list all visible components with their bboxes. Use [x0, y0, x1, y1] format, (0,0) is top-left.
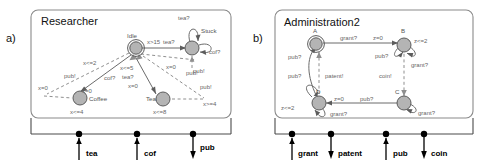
edge-D-C-arrow — [326, 101, 332, 106]
port-grant-arrow-in — [289, 138, 295, 144]
panel-a-bus: tea cof pub — [31, 118, 231, 160]
port-grant-dot[interactable] — [289, 131, 295, 137]
label-pub-bottom: pub? — [360, 96, 374, 102]
panel-b-title: Administration2 — [284, 16, 360, 28]
state-coffee[interactable]: Coffee x<=4 — [70, 91, 108, 115]
state-B-invariant: z<=2 — [414, 38, 428, 44]
port-tea-arrow-in — [76, 138, 82, 144]
panel-b-bus: grant patent pub coin — [275, 118, 473, 160]
state-D-circle[interactable] — [312, 96, 326, 110]
state-B-label: B — [401, 27, 405, 34]
port-patent-dot[interactable] — [328, 131, 334, 137]
port-pub-dot[interactable] — [190, 131, 196, 137]
port-coin-arrow-out — [421, 151, 427, 159]
panel-a-tag: a) — [6, 32, 16, 44]
edge-C-B-dashed-arrow — [401, 90, 407, 96]
state-B[interactable]: B z<=2 — [397, 27, 428, 52]
figure-root: a) Researcher — [0, 0, 482, 167]
port-grant-label: grant — [298, 149, 318, 158]
state-D-invariant: z<=2 — [281, 105, 295, 111]
panel-a: a) Researcher — [6, 10, 231, 160]
port-coin[interactable]: coin — [421, 131, 448, 159]
state-stuck-circle[interactable] — [185, 41, 199, 55]
edge-idle-farright-dashed — [143, 56, 204, 98]
state-A-label: A — [313, 27, 318, 34]
label-x-le-5: x<=5 — [120, 65, 134, 71]
label-pub-left-2: pub? — [288, 73, 302, 79]
label-x0-cof: x=0 — [82, 88, 93, 94]
panel-b: b) Administration2 — [253, 10, 473, 160]
edge-stuck-pub-arrow — [190, 56, 195, 62]
port-tea-dot[interactable] — [76, 131, 82, 137]
label-x-ge-4: x>=4 — [203, 101, 217, 107]
state-tea-circle[interactable] — [156, 92, 170, 106]
port-pub-b[interactable]: pub — [383, 131, 408, 160]
panel-a-title: Researcher — [41, 15, 98, 27]
state-tea[interactable]: Tea x<=8 — [146, 92, 170, 115]
port-cof[interactable]: cof — [134, 131, 157, 160]
automata-figure: a) Researcher — [0, 0, 482, 167]
port-grant[interactable]: grant — [289, 131, 319, 160]
label-x-le-2: x<=2 — [83, 60, 97, 66]
label-grant-B: grant? — [411, 62, 429, 68]
port-cof-dot[interactable] — [134, 131, 140, 137]
edge-left-coffee-dashed — [44, 96, 72, 98]
label-z0-bottom: z=0 — [334, 96, 345, 102]
state-D-label: D — [316, 88, 321, 95]
port-pub[interactable]: pub — [190, 131, 215, 159]
edge-idle-tea-arrow — [151, 87, 156, 94]
state-stuck-label: Stuck — [201, 27, 217, 34]
port-patent[interactable]: patent — [328, 131, 363, 159]
port-tea-label: tea — [86, 149, 98, 158]
port-cof-arrow-in — [134, 138, 140, 144]
label-x0-left: x=0 — [38, 85, 49, 91]
port-pub-b-arrow-in — [383, 138, 389, 144]
state-A[interactable]: A — [308, 27, 325, 52]
state-coffee-label: Coffee — [89, 95, 108, 102]
label-patent: patent! — [325, 73, 344, 79]
label-grant-top: grant? — [340, 35, 358, 41]
state-C-circle[interactable] — [397, 96, 411, 110]
state-idle-label: Idle — [127, 32, 138, 39]
label-z0-top: z=0 — [373, 35, 384, 41]
edge-A-D-patent-arrow — [316, 52, 322, 58]
port-pub-arrow-out — [190, 151, 196, 159]
loop-stuck-tea-arrow — [196, 35, 201, 41]
state-C-label: C — [395, 88, 400, 95]
label-x0-tea: x=0 — [128, 83, 139, 89]
port-coin-dot[interactable] — [421, 131, 427, 137]
state-D[interactable]: D z<=2 — [281, 88, 326, 111]
port-tea[interactable]: tea — [76, 131, 98, 160]
label-stuck-in: tea? — [163, 39, 175, 45]
label-pub-B: pub? — [375, 53, 389, 59]
label-pub-left: pub! — [64, 73, 76, 79]
state-tea-invariant: x<=8 — [153, 109, 167, 115]
edge-idle-right-dashed — [141, 54, 196, 60]
port-patent-arrow-out — [328, 151, 334, 159]
state-idle-invariant: x>15 — [147, 39, 161, 45]
label-coin: coin! — [379, 73, 392, 79]
panel-b-tag: b) — [253, 32, 263, 44]
label-pub-left-1: pub? — [288, 54, 302, 60]
label-cof: cof? — [104, 75, 116, 81]
port-pub-b-dot[interactable] — [383, 131, 389, 137]
label-stuck-loop-top: tea? — [178, 15, 190, 21]
port-patent-label: patent — [338, 149, 362, 158]
state-idle-circle[interactable] — [130, 42, 142, 54]
port-pub-b-label: pub — [393, 149, 408, 158]
label-pub-right-2: pub! — [200, 84, 212, 90]
label-tea-guard: tea? — [122, 74, 134, 80]
label-x0-right: x=0 — [166, 64, 177, 70]
label-grant-D: grant? — [330, 111, 348, 117]
state-B-circle[interactable] — [397, 38, 411, 52]
label-grant-C: grant? — [418, 110, 436, 116]
label-stuck-loop-right: cof? — [209, 49, 221, 55]
state-coffee-invariant: x<=4 — [70, 109, 84, 115]
state-idle[interactable]: Idle x>15 — [127, 32, 161, 56]
state-A-circle[interactable] — [310, 38, 322, 50]
loop-B-right-arrow — [407, 53, 413, 58]
port-cof-label: cof — [144, 149, 156, 158]
state-tea-label: Tea — [146, 95, 157, 102]
port-coin-label: coin — [431, 149, 448, 158]
loop-B-left-arrow — [397, 52, 403, 58]
